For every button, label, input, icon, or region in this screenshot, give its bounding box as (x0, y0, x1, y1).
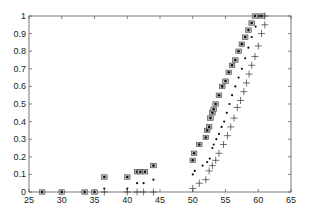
plot-area (29, 16, 291, 192)
x-tick-label: 40 (122, 195, 132, 205)
x-tick-label: 35 (89, 195, 99, 205)
y-tick-label: 1 (21, 11, 26, 21)
x-tick-label: 30 (57, 195, 67, 205)
y-tick-label: 0.4 (13, 117, 26, 127)
x-tick-label: 65 (286, 195, 296, 205)
x-tick-label: 60 (253, 195, 263, 205)
x-tick-label: 55 (220, 195, 230, 205)
x-tick-label: 50 (188, 195, 198, 205)
y-tick-label: 0 (21, 187, 26, 197)
y-tick-label: 0.9 (13, 29, 26, 39)
x-tick-label: 45 (155, 195, 165, 205)
y-tick-label: 0.1 (13, 169, 26, 179)
y-tick-label: 0.3 (13, 134, 26, 144)
y-tick-label: 0.7 (13, 64, 26, 74)
scatter-chart: 253035404550556065 00.10.20.30.40.50.60.… (0, 0, 310, 212)
y-tick-label: 0.8 (13, 46, 26, 56)
y-tick-label: 0.6 (13, 81, 26, 91)
y-tick-label: 0.5 (13, 99, 26, 109)
y-tick-label: 0.2 (13, 152, 26, 162)
